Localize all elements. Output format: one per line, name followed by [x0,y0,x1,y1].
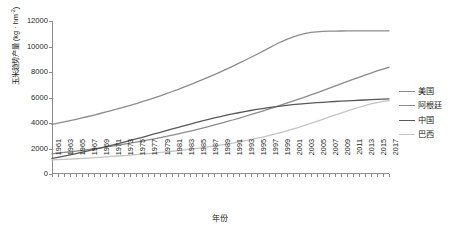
chart-legend: 美国阿根廷中国巴西 [399,84,472,142]
y-axis-tick-labels: 020004000600080001000012000 [14,0,48,236]
x-axis-tick-mark [196,174,197,177]
legend-line-swatch [399,91,415,92]
legend-item: 中国 [399,113,472,128]
x-axis-tick-mark [281,174,282,177]
x-axis-tick-mark [233,174,234,177]
x-axis-tick-mark [293,174,294,177]
x-axis-tick-label: 1981 [176,139,184,179]
x-axis-tick-label: 1975 [139,139,147,179]
x-axis-tick-label: 2015 [380,139,388,179]
x-axis-tick-label: 1989 [224,139,232,179]
x-axis-tick-label: 1991 [236,139,244,179]
y-axis-tick-label: 0 [14,170,48,178]
x-axis-tick-mark [365,174,366,177]
x-axis-tick-mark [124,174,125,177]
legend-line-swatch [399,105,415,106]
legend-line-swatch [399,120,415,121]
x-axis-tick-mark [100,174,101,177]
x-axis-tick-label: 2003 [308,139,316,179]
x-axis-tick-mark [52,174,53,177]
legend-label: 美国 [418,87,434,96]
y-axis-tick-label: 4000 [14,119,48,127]
x-axis-tick-mark [160,174,161,177]
x-axis-tick-label: 1961 [55,139,63,179]
x-axis-tick-label: 1963 [67,139,75,179]
x-axis-tick-label: 1985 [200,139,208,179]
x-axis-tick-mark [257,174,258,177]
chart-figure: 玉米趋势产量 (kg · hm-2) 020004000600080001000… [0,0,472,236]
x-axis-tick-label: 1965 [79,139,87,179]
x-axis-tick-label: 1983 [188,139,196,179]
x-axis-tick-mark [64,174,65,177]
x-axis-tick-label: 1973 [127,139,135,179]
x-axis-tick-label: 2011 [356,139,364,179]
x-axis-tick-mark [148,174,149,177]
x-axis-tick-label: 2013 [368,139,376,179]
x-axis-tick-label: 1977 [151,139,159,179]
y-axis-tick-label: 2000 [14,145,48,153]
x-axis-tick-label: 1999 [284,139,292,179]
x-axis-title: 年份 [0,214,440,224]
x-axis-tick-mark [377,174,378,177]
x-axis-tick-label: 1971 [115,139,123,179]
x-axis-tick-mark [88,174,89,177]
x-axis-tick-label: 1969 [103,139,111,179]
x-axis-tick-label: 2009 [344,139,352,179]
legend-item: 美国 [399,84,472,99]
legend-item: 阿根廷 [399,99,472,114]
legend-label: 阿根廷 [418,101,442,110]
y-axis-tick-label: 12000 [14,17,48,25]
x-axis-tick-mark [389,174,390,177]
x-axis-tick-label: 2005 [320,139,328,179]
x-axis-tick-mark [329,174,330,177]
x-axis-tick-label: 2007 [332,139,340,179]
x-axis-tick-mark [208,174,209,177]
x-axis-tick-mark [184,174,185,177]
y-axis-tick-label: 10000 [14,43,48,51]
x-axis-tick-mark [221,174,222,177]
x-axis-tick-mark [341,174,342,177]
x-axis-tick-label: 1967 [91,139,99,179]
x-axis-tick-label: 2017 [392,139,400,179]
legend-label: 巴西 [418,130,434,139]
y-axis-tick-label: 8000 [14,68,48,76]
x-axis-tick-mark [172,174,173,177]
x-axis-tick-mark [353,174,354,177]
x-axis-tick-label: 1997 [272,139,280,179]
x-axis-tick-label: 1995 [260,139,268,179]
x-axis-tick-label: 1993 [248,139,256,179]
y-axis-tick-label: 6000 [14,94,48,102]
x-axis-tick-mark [317,174,318,177]
x-axis-tick-label: 2001 [296,139,304,179]
x-axis-ticks: 1961196319651967196919711973197519771979… [52,174,389,236]
series-line [52,31,389,124]
x-axis-tick-label: 1987 [212,139,220,179]
x-axis-tick-mark [76,174,77,177]
legend-line-swatch [399,134,415,135]
x-axis-tick-label: 1979 [164,139,172,179]
x-axis-tick-mark [269,174,270,177]
x-axis-tick-mark [136,174,137,177]
x-axis-tick-mark [245,174,246,177]
x-axis-tick-mark [112,174,113,177]
legend-item: 巴西 [399,128,472,143]
legend-label: 中国 [418,116,434,125]
x-axis-tick-mark [305,174,306,177]
